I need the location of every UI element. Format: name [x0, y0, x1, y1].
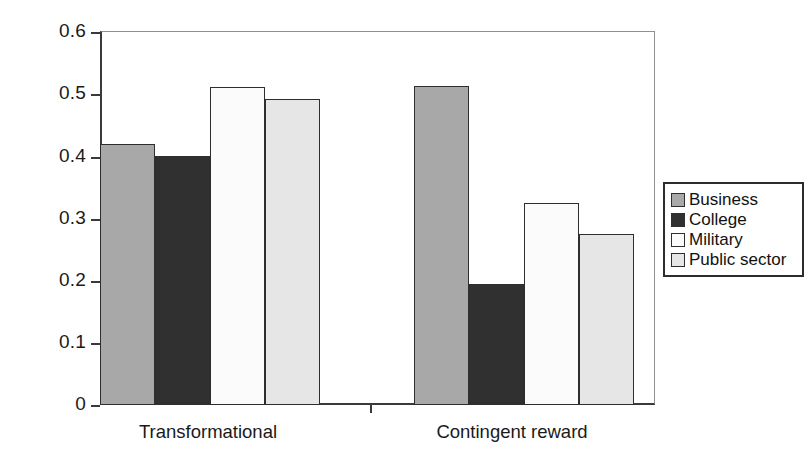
legend-swatch-military [671, 233, 685, 247]
y-axis: 0 0.1 0.2 0.3 0.4 0.5 0.6 [0, 0, 100, 476]
legend-swatch-public-sector [671, 253, 685, 267]
y-tick-mark [91, 94, 100, 96]
x-axis-label-transformational: Transformational [108, 420, 308, 444]
legend-label-military: Military [689, 230, 743, 249]
y-tick-mark [91, 343, 100, 345]
y-tick-mark [91, 32, 100, 34]
y-tick-label: 0.2 [59, 269, 86, 291]
legend-label-business: Business [689, 190, 758, 209]
legend: Business College Military Public sector [663, 182, 804, 277]
legend-swatch-college [671, 213, 685, 227]
y-tick-label: 0 [75, 393, 86, 415]
legend-item-military[interactable]: Military [671, 230, 797, 249]
y-tick-label: 0.6 [59, 20, 86, 42]
y-tick-label: 0.4 [59, 145, 86, 167]
plot-area [100, 31, 655, 405]
chart-root: 0 0.1 0.2 0.3 0.4 0.5 0.6 Transforma [0, 0, 806, 476]
y-tick-mark [91, 157, 100, 159]
legend-label-public-sector: Public sector [689, 250, 786, 269]
y-tick-mark [91, 219, 100, 221]
legend-label-college: College [689, 210, 747, 229]
legend-swatch-business [671, 193, 685, 207]
y-tick-label: 0.5 [59, 82, 86, 104]
x-tick-mark-midpoint [370, 405, 372, 413]
legend-item-business[interactable]: Business [671, 190, 797, 209]
y-tick-label: 0.3 [59, 207, 86, 229]
x-axis-label-contingent-reward: Contingent reward [412, 420, 612, 444]
y-tick-label: 0.1 [59, 331, 86, 353]
legend-item-college[interactable]: College [671, 210, 797, 229]
y-tick-mark [91, 405, 100, 407]
legend-item-public-sector[interactable]: Public sector [671, 250, 797, 269]
y-tick-mark [91, 281, 100, 283]
